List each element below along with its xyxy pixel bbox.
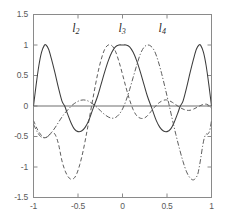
y-tick-label: 1.5 [2,9,28,19]
y-tick-label: 1 [2,40,28,50]
y-tick-label: 0 [2,101,28,111]
chart-figure: -1.5-1-0.500.511.5 -1-0.500.51 l2l3l4 [0,0,227,223]
y-tick-label: -0.5 [2,131,28,141]
curve-label-subscript: 4 [162,27,166,36]
y-tick-label: -1 [2,162,28,172]
curve-label-l3: l3 [119,21,126,36]
y-tick-label: 0.5 [2,70,28,80]
x-tick-label: 0.5 [155,201,179,211]
curve-label-l2: l2 [72,21,79,36]
curve-label-subscript: 3 [122,27,126,36]
x-tick-label: -1 [22,201,46,211]
x-tick-label: -0.5 [66,201,90,211]
x-tick-label: 1 [200,201,224,211]
curve-label-subscript: 2 [76,27,80,36]
curve-label-l4: l4 [159,21,166,36]
plot-canvas [0,0,227,223]
x-tick-label: 0 [111,201,135,211]
